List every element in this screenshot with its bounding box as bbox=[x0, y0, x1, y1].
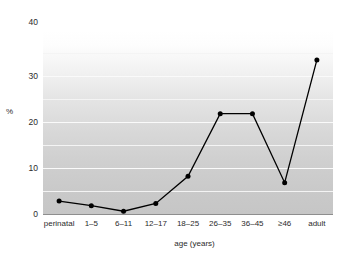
x-tick-label-0: perinatal bbox=[44, 219, 75, 229]
x-tick-label-8: adult bbox=[308, 219, 325, 229]
x-tick-label-2: 6–11 bbox=[115, 219, 132, 229]
x-axis-title: age (years) bbox=[0, 239, 349, 248]
x-axis-title-text: age (years) bbox=[134, 239, 214, 248]
data-point-marker bbox=[57, 199, 62, 204]
data-point-marker bbox=[314, 57, 319, 62]
data-point-marker bbox=[218, 111, 223, 116]
y-tick-label-30: 30 bbox=[12, 72, 38, 81]
x-tick-label-5: 26–35 bbox=[209, 219, 231, 229]
y-tick-label-20: 20 bbox=[12, 118, 38, 127]
x-tick-label-7: ≥46 bbox=[278, 219, 291, 229]
x-tick-label-4: 18–25 bbox=[177, 219, 199, 229]
data-point-marker bbox=[282, 180, 287, 185]
x-tick-label-1: 1–5 bbox=[85, 219, 98, 229]
data-series-line bbox=[43, 30, 333, 214]
y-tick-label-40: 40 bbox=[12, 18, 38, 27]
x-tick-label-3: 12–17 bbox=[145, 219, 167, 229]
x-axis-line bbox=[43, 214, 333, 215]
y-axis-title: % bbox=[6, 107, 13, 116]
data-point-marker bbox=[121, 209, 126, 214]
data-point-marker bbox=[250, 111, 255, 116]
data-point-marker bbox=[186, 174, 191, 179]
x-tick-label-6: 36–45 bbox=[241, 219, 263, 229]
chart-container: 40 30 20 10 0 % perinatal1–56–1112–1718–… bbox=[0, 0, 349, 260]
data-point-marker bbox=[89, 203, 94, 208]
data-point-marker bbox=[153, 201, 158, 206]
series-polyline bbox=[59, 60, 317, 211]
y-axis-ticks: 40 30 20 10 0 bbox=[10, 0, 38, 260]
y-tick-label-10: 10 bbox=[12, 164, 38, 173]
y-tick-label-0: 0 bbox=[12, 210, 38, 219]
